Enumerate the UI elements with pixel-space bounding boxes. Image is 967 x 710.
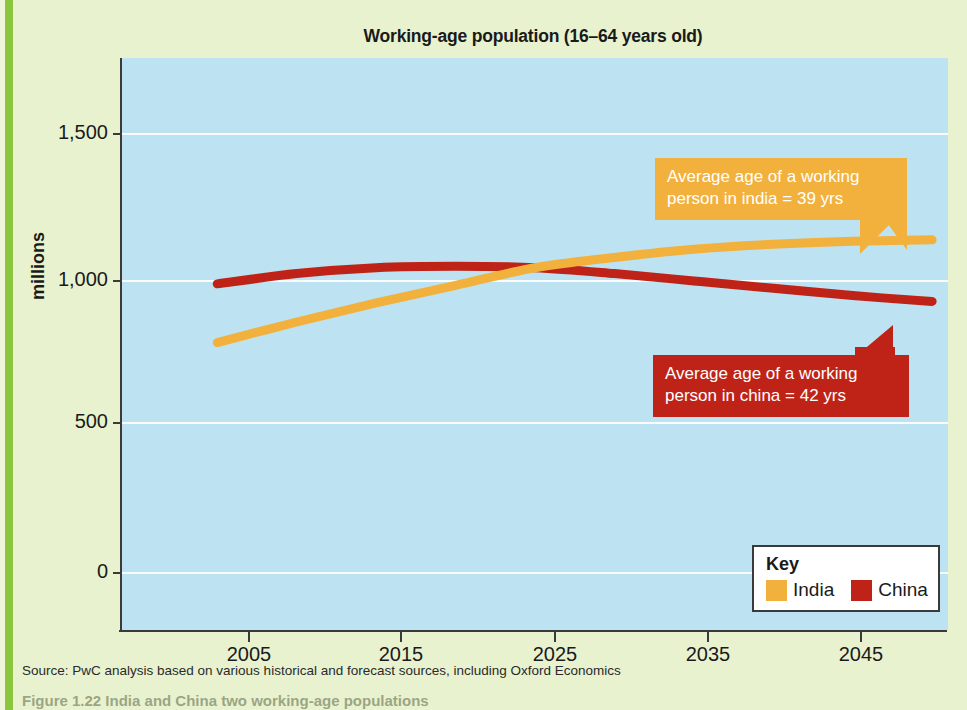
india-callout-line2: person in india = 39 yrs xyxy=(667,188,895,210)
x-tick-label-2035: 2035 xyxy=(668,643,748,666)
y-tick-mark-1500 xyxy=(113,133,122,135)
india-annotation-callout: Average age of a working person in india… xyxy=(655,158,907,220)
legend-label-india: India xyxy=(793,579,834,601)
x-tick-mark-2035 xyxy=(707,632,709,642)
x-tick-mark-2005 xyxy=(248,632,250,642)
y-tick-label-0: 0 xyxy=(97,560,108,583)
chart-page: Working-age population (16–64 years old)… xyxy=(0,0,967,710)
china-annotation-callout: Average age of a working person in china… xyxy=(653,355,909,417)
y-axis-labels: 1,500 1,000 500 0 xyxy=(0,58,108,630)
legend-swatch-india xyxy=(766,580,787,601)
y-tick-mark-1000 xyxy=(113,280,122,282)
legend-items-row: India China xyxy=(766,579,928,601)
china-callout-line2: person in china = 42 yrs xyxy=(665,385,897,407)
legend-label-china: China xyxy=(878,579,928,601)
legend-item-china[interactable]: China xyxy=(851,579,928,601)
y-tick-label-1500: 1,500 xyxy=(58,121,108,144)
x-tick-mark-2045 xyxy=(860,632,862,642)
legend-swatch-china xyxy=(851,580,872,601)
series-line-china xyxy=(217,266,932,301)
source-note: Source: PwC analysis based on various hi… xyxy=(22,663,621,678)
x-axis-line xyxy=(119,630,947,632)
figure-caption: Figure 1.22 India and China two working-… xyxy=(22,692,962,710)
y-tick-mark-500 xyxy=(113,422,122,424)
y-tick-label-500: 500 xyxy=(75,410,108,433)
x-tick-label-2045: 2045 xyxy=(821,643,901,666)
legend-key-box: Key India China xyxy=(752,545,940,612)
y-axis-title: millions xyxy=(28,232,49,300)
x-tick-mark-2015 xyxy=(400,632,402,642)
legend-item-india[interactable]: India xyxy=(766,579,834,601)
chart-title: Working-age population (16–64 years old) xyxy=(120,26,946,47)
y-tick-label-1000: 1,000 xyxy=(58,268,108,291)
x-tick-mark-2025 xyxy=(554,632,556,642)
y-tick-mark-0 xyxy=(113,572,122,574)
legend-title: Key xyxy=(766,554,928,575)
china-callout-line1: Average age of a working xyxy=(665,363,897,385)
india-callout-line1: Average age of a working xyxy=(667,166,895,188)
plot-area: Key India China xyxy=(120,58,948,630)
india-callout-tail-point xyxy=(885,220,907,250)
